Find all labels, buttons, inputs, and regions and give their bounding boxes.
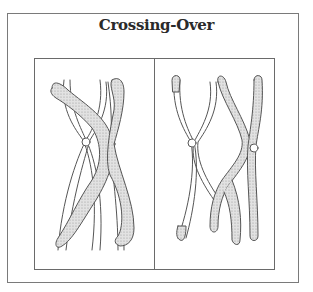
chromosome-illustration	[0, 0, 313, 292]
right-centromere	[250, 144, 258, 152]
right-stippled-tip-2	[177, 226, 186, 240]
right-stippled-tip-1	[172, 76, 180, 93]
left-stippled-chromatid-1	[51, 83, 113, 247]
right-stippled-chromatid-2	[247, 76, 262, 241]
left-stippled-chromatid-2	[107, 79, 134, 247]
